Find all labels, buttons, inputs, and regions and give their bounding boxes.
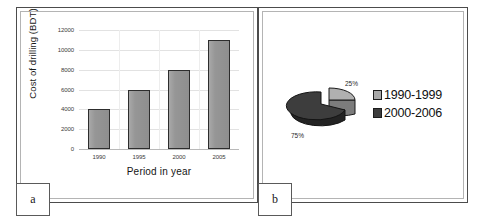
gridline-0-axis: 0 (79, 149, 239, 150)
y-tick-label: 10000 (58, 47, 74, 53)
figure-container: Cost of drilling (BDT) 12000 10000 8000 … (0, 0, 484, 220)
x-tick-label: 1995 (133, 154, 146, 160)
legend-label: 1990-1999 (384, 88, 442, 102)
category-divider (199, 30, 200, 149)
bar-2005 (208, 40, 230, 149)
category-divider (159, 30, 160, 149)
panel-tag-a: a (16, 183, 50, 216)
legend-label: 2000-2006 (384, 106, 442, 120)
pie-chart: 25% 75% 1990-1999 2000-2006 (259, 8, 467, 202)
legend-swatch-icon (373, 90, 382, 100)
pie-3d-graphic (283, 74, 375, 136)
x-tick-label: 1990 (93, 154, 106, 160)
y-tick-label: 2000 (61, 126, 74, 132)
bar-1990 (88, 109, 110, 149)
panel-tag-b: b (258, 183, 292, 216)
bar-chart-plot-area: 12000 10000 8000 6000 4000 2000 (79, 30, 239, 149)
y-tick-label: 12000 (58, 27, 74, 33)
pie-data-label-25: 25% (345, 80, 358, 87)
legend-item-2000-2006: 2000-2006 (373, 106, 442, 120)
y-tick-label: 6000 (61, 87, 74, 93)
x-tick-label: 2000 (173, 154, 186, 160)
legend-swatch-icon (373, 108, 382, 118)
y-tick-label: 8000 (61, 67, 74, 73)
category-divider (119, 30, 120, 149)
bar-chart-panel: Cost of drilling (BDT) 12000 10000 8000 … (16, 7, 258, 203)
x-tick-label: 2005 (213, 154, 226, 160)
legend-item-1990-1999: 1990-1999 (373, 88, 442, 102)
pie-legend: 1990-1999 2000-2006 (373, 88, 442, 124)
pie-chart-panel: 25% 75% 1990-1999 2000-2006 (258, 7, 468, 203)
x-axis-title: Period in year (79, 166, 239, 177)
pie-data-label-75: 75% (291, 132, 304, 139)
y-tick-label: 4000 (61, 106, 74, 112)
pie-slice-1990-1999-top (329, 88, 355, 100)
y-tick-label: 0 (71, 146, 74, 152)
bar-2000 (168, 70, 190, 149)
bar-chart: Cost of drilling (BDT) 12000 10000 8000 … (17, 8, 257, 202)
bar-1995 (128, 90, 150, 150)
y-axis-title: Cost of drilling (BDT) (27, 0, 38, 113)
